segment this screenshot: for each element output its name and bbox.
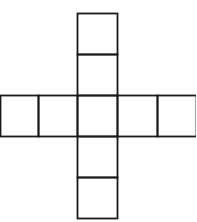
square-cell-row-right [118, 96, 158, 137]
square-cell-bottom-1 [78, 137, 118, 178]
square-cell-row-left-outer [1, 96, 39, 137]
square-cell-bottom-2 [78, 178, 118, 219]
cross-net-diagram [0, 0, 196, 222]
square-cell-center [78, 96, 118, 137]
square-cell-row-right-outer [158, 96, 197, 137]
square-cell-row-left [39, 96, 78, 137]
square-cell-top-1 [78, 14, 118, 55]
square-cell-top-2 [78, 55, 118, 96]
